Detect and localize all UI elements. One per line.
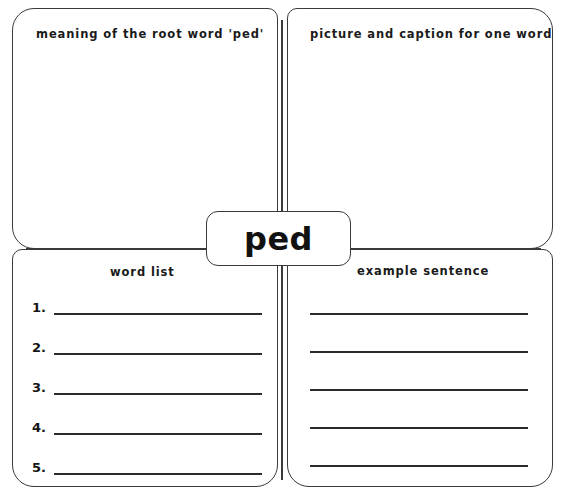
list-item-number: 4. <box>32 421 54 435</box>
write-line[interactable] <box>54 313 262 315</box>
panel-picture-caption-header: picture and caption for one word <box>310 27 552 41</box>
list-item[interactable]: 5. <box>32 453 262 475</box>
list-item-number: 5. <box>32 461 54 475</box>
panel-meaning-header: meaning of the root word 'ped' <box>36 27 264 41</box>
write-line[interactable] <box>310 465 528 467</box>
list-item[interactable]: 1. <box>32 293 262 315</box>
write-line[interactable] <box>310 427 528 429</box>
list-item-number: 3. <box>32 381 54 395</box>
list-item-number: 1. <box>32 301 54 315</box>
write-line[interactable] <box>54 473 262 475</box>
root-word-worksheet: meaning of the root word 'ped' picture a… <box>0 0 565 500</box>
write-line[interactable] <box>54 393 262 395</box>
list-item[interactable]: 3. <box>32 373 262 395</box>
list-item-number: 2. <box>32 341 54 355</box>
write-line[interactable] <box>310 389 528 391</box>
write-line[interactable] <box>310 313 528 315</box>
list-item[interactable]: 4. <box>32 413 262 435</box>
example-sentence-rows <box>287 249 553 487</box>
write-line[interactable] <box>54 353 262 355</box>
root-word-label: ped <box>244 223 313 255</box>
word-list-rows: 1. 2. 3. 4. 5. <box>12 249 278 487</box>
write-line[interactable] <box>310 351 528 353</box>
list-item[interactable]: 2. <box>32 333 262 355</box>
write-line[interactable] <box>54 433 262 435</box>
root-word-box[interactable]: ped <box>206 211 351 266</box>
